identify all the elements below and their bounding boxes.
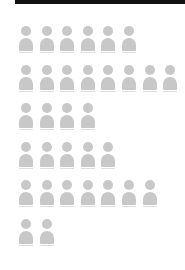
person-head — [62, 26, 72, 36]
person-head — [83, 142, 93, 152]
person-body — [81, 77, 95, 90]
pictogram-row — [19, 26, 184, 51]
person-icon — [19, 65, 33, 90]
person-head — [145, 180, 155, 190]
person-body — [81, 38, 95, 51]
person-head — [42, 103, 52, 113]
person-head — [103, 180, 113, 190]
pictogram-row — [19, 180, 184, 205]
person-icon — [163, 65, 177, 90]
person-icon — [122, 26, 136, 51]
pictogram-row — [19, 65, 184, 90]
person-body — [40, 231, 54, 244]
person-body — [19, 231, 33, 244]
person-head — [21, 26, 31, 36]
person-icon — [101, 180, 115, 205]
person-head — [42, 26, 52, 36]
person-icon — [19, 103, 33, 128]
pictogram-row — [19, 103, 184, 128]
person-body — [101, 154, 115, 167]
person-body — [19, 154, 33, 167]
person-icon — [40, 219, 54, 244]
person-head — [103, 65, 113, 75]
person-icon — [81, 26, 95, 51]
person-head — [124, 180, 134, 190]
person-head — [42, 142, 52, 152]
person-icon — [40, 103, 54, 128]
person-body — [40, 38, 54, 51]
person-body — [19, 77, 33, 90]
person-body — [19, 192, 33, 205]
person-head — [165, 65, 175, 75]
person-head — [83, 65, 93, 75]
person-body — [122, 77, 136, 90]
person-head — [124, 26, 134, 36]
person-icon — [19, 26, 33, 51]
person-head — [145, 65, 155, 75]
person-body — [81, 192, 95, 205]
person-head — [83, 180, 93, 190]
person-body — [40, 154, 54, 167]
person-body — [60, 192, 74, 205]
person-head — [62, 103, 72, 113]
person-head — [21, 180, 31, 190]
person-icon — [81, 103, 95, 128]
person-body — [19, 115, 33, 128]
person-head — [21, 142, 31, 152]
person-head — [83, 103, 93, 113]
person-icon — [81, 142, 95, 167]
person-body — [122, 38, 136, 51]
person-icon — [60, 65, 74, 90]
person-icon — [122, 180, 136, 205]
person-icon — [60, 180, 74, 205]
person-body — [60, 77, 74, 90]
person-head — [42, 180, 52, 190]
person-body — [163, 77, 177, 90]
person-icon — [81, 180, 95, 205]
person-head — [42, 219, 52, 229]
person-icon — [40, 142, 54, 167]
person-body — [143, 192, 157, 205]
person-body — [101, 192, 115, 205]
pictogram-row — [19, 219, 184, 244]
person-icon — [40, 26, 54, 51]
person-body — [101, 77, 115, 90]
person-icon — [60, 103, 74, 128]
person-icon — [122, 65, 136, 90]
person-icon — [143, 180, 157, 205]
person-head — [21, 65, 31, 75]
pictogram-row — [19, 142, 184, 167]
person-head — [103, 142, 113, 152]
person-icon — [19, 180, 33, 205]
person-body — [19, 38, 33, 51]
person-icon — [40, 180, 54, 205]
person-body — [40, 77, 54, 90]
person-icon — [101, 142, 115, 167]
person-body — [143, 77, 157, 90]
person-body — [122, 192, 136, 205]
person-head — [62, 65, 72, 75]
person-icon — [19, 219, 33, 244]
person-head — [83, 26, 93, 36]
person-body — [60, 115, 74, 128]
person-icon — [19, 142, 33, 167]
pictogram-chart — [19, 26, 184, 257]
person-body — [40, 192, 54, 205]
person-icon — [81, 65, 95, 90]
person-head — [21, 103, 31, 113]
person-icon — [60, 142, 74, 167]
person-head — [62, 142, 72, 152]
person-body — [60, 38, 74, 51]
person-head — [62, 180, 72, 190]
person-body — [101, 38, 115, 51]
person-icon — [40, 65, 54, 90]
person-icon — [143, 65, 157, 90]
person-head — [103, 26, 113, 36]
person-body — [60, 154, 74, 167]
person-icon — [101, 65, 115, 90]
person-icon — [101, 26, 115, 51]
person-head — [124, 65, 134, 75]
person-head — [21, 219, 31, 229]
top-bar — [15, 0, 185, 4]
person-head — [42, 65, 52, 75]
